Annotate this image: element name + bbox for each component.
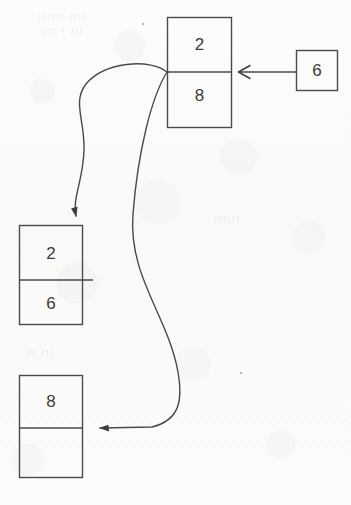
top-node-lower-cell-value: 8: [167, 87, 232, 104]
node-top[interactable]: [168, 18, 232, 128]
right-node-cell-value: 6: [296, 62, 338, 79]
arrow-right-node-to-top-node[interactable]: [239, 66, 297, 79]
middle-left-node-upper-cell-value: 2: [19, 245, 83, 262]
middle-left-node-lower-cell-value: 6: [19, 295, 83, 312]
bottom-left-node-upper-cell-value: 8: [19, 393, 83, 410]
top-node-upper-cell-value: 2: [167, 36, 232, 53]
bottom-left-node[interactable]: [20, 376, 83, 478]
curve-top-node-to-middle-left-node[interactable]: [75, 64, 167, 216]
scanned-page: tttt tttttt ttt t ttt tttttt ttt tt: [0, 0, 351, 505]
